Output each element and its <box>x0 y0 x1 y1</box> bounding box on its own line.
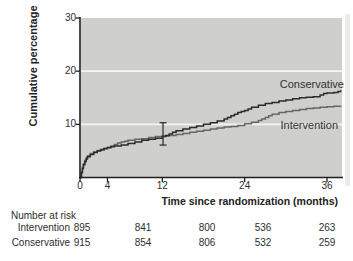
risk-row-conservative: Conservative 915 854 806 532 259 <box>0 237 353 249</box>
risk-row-label: Conservative <box>0 237 70 248</box>
risk-value: 895 <box>74 222 91 233</box>
x-tick-label: 36 <box>321 180 332 191</box>
series-label-conservative: Conservative <box>280 78 344 90</box>
x-tick-label: 4 <box>105 180 111 191</box>
risk-table-title: Number at risk <box>11 210 76 221</box>
x-axis-title: Time since randomization (months) <box>161 195 338 207</box>
risk-value: 536 <box>255 222 272 233</box>
x-tick-label: 24 <box>239 180 250 191</box>
y-axis-title: Cumulative percentage <box>27 5 39 126</box>
risk-value: 841 <box>135 222 152 233</box>
x-tick-label: 0 <box>77 180 83 191</box>
risk-value: 800 <box>199 222 216 233</box>
scan-edge-artifact <box>345 14 350 186</box>
risk-row-label: Intervention <box>0 222 70 233</box>
series-label-intervention: Intervention <box>281 119 338 131</box>
x-tick-label: 12 <box>157 180 168 191</box>
risk-value: 915 <box>74 237 91 248</box>
y-tick-label: 10 <box>56 118 76 130</box>
risk-value: 532 <box>255 237 272 248</box>
risk-value: 263 <box>319 222 336 233</box>
y-tick-label: 30 <box>56 12 76 24</box>
risk-value: 259 <box>319 237 336 248</box>
risk-value: 806 <box>199 237 216 248</box>
y-tick-label: 20 <box>56 65 76 77</box>
risk-row-intervention: Intervention 895 841 800 536 263 <box>0 222 353 234</box>
km-figure: Cumulative percentage Time since randomi… <box>0 0 353 261</box>
risk-value: 854 <box>135 237 152 248</box>
